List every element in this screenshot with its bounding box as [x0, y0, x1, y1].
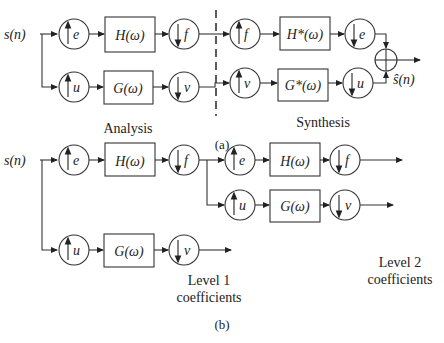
down-f-label-a: f	[184, 27, 190, 42]
up-e-label-b1: e	[73, 153, 79, 168]
up-f-label-synth: f	[244, 27, 250, 42]
input-label-b: s(n)	[4, 153, 26, 169]
filter-h-label-b1: H(ω)	[114, 154, 145, 170]
filter-g-label-a: G(ω)	[113, 81, 143, 97]
synthesis-label: Synthesis	[296, 115, 350, 130]
up-u-label-b2: u	[239, 198, 246, 213]
output-label: ŝ(n)	[393, 72, 415, 88]
filter-g-label-b2: G(ω)	[280, 199, 310, 215]
down-v-label-b1: v	[184, 243, 191, 258]
analysis-label: Analysis	[104, 121, 153, 136]
diagram-svg: s(n) e H(ω) f u G(ω) v f H*(ω) e v G*(ω)…	[0, 0, 444, 343]
input-label-a: s(n)	[4, 27, 26, 43]
down-v-label-b2: v	[345, 198, 352, 213]
filter-g-label-b1: G(ω)	[114, 244, 144, 260]
level1-label-line1: Level 1	[188, 273, 230, 288]
down-f-label-b1: f	[184, 153, 190, 168]
up-v-label-synth: v	[244, 76, 251, 91]
level1-label-line2: coefficients	[176, 290, 241, 305]
filter-hstar-label: H*(ω)	[286, 27, 324, 43]
up-u-label-a: u	[73, 80, 80, 95]
level2-label-line1: Level 2	[379, 255, 421, 270]
filter-h-label-b2: H(ω)	[279, 154, 310, 170]
caption-a: (a)	[215, 137, 229, 152]
filter-gstar-label: G*(ω)	[285, 78, 322, 94]
up-e-label-b2: e	[239, 153, 245, 168]
down-f-label-b2: f	[345, 153, 351, 168]
caption-b: (b)	[214, 317, 229, 332]
down-u-label-synth: u	[357, 76, 364, 91]
up-e-label-a: e	[73, 27, 79, 42]
up-u-label-b1: u	[73, 243, 80, 258]
down-e-label-synth: e	[359, 27, 365, 42]
down-v-label-a: v	[184, 80, 191, 95]
filter-h-label-a: H(ω)	[114, 28, 145, 44]
level2-label-line2: coefficients	[367, 272, 432, 287]
filter-bank-diagram: s(n) e H(ω) f u G(ω) v f H*(ω) e v G*(ω)…	[0, 0, 444, 343]
